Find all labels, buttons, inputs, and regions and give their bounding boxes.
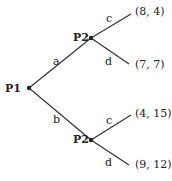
- payoff-ad: (7, 7): [135, 59, 165, 70]
- payoff-bc: (4, 15): [135, 108, 172, 119]
- payoff-ac: (8, 4): [135, 6, 165, 17]
- label-p2-upper: P2: [73, 32, 89, 43]
- action-a: a: [53, 56, 60, 67]
- node-p2-lower: [89, 138, 93, 142]
- node-p1: [27, 86, 31, 90]
- action-lower-c: c: [106, 115, 112, 126]
- label-p1: P1: [5, 83, 21, 94]
- action-upper-d: d: [105, 56, 112, 67]
- edge-a: [29, 38, 91, 88]
- tree-edges: [0, 0, 172, 181]
- action-upper-c: c: [106, 13, 112, 24]
- action-lower-d: d: [105, 157, 112, 168]
- payoff-bd: (9, 12): [135, 159, 172, 170]
- label-p2-lower: P2: [73, 134, 89, 145]
- action-b: b: [53, 114, 60, 125]
- node-p2-upper: [89, 36, 93, 40]
